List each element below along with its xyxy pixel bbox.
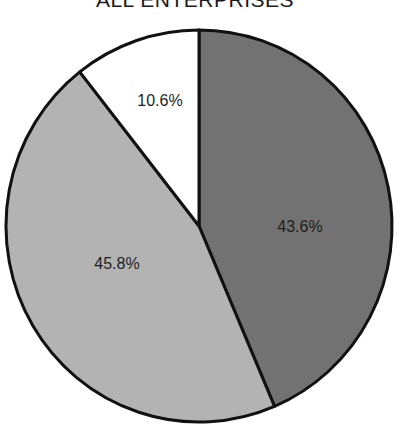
slice-label-10-6: 10.6% [137,92,182,109]
pie-slices [6,30,392,422]
slice-label-45-8: 45.8% [94,255,139,272]
pie-chart: 43.6% 45.8% 10.6% [0,0,402,428]
slice-label-43-6: 43.6% [277,218,322,235]
